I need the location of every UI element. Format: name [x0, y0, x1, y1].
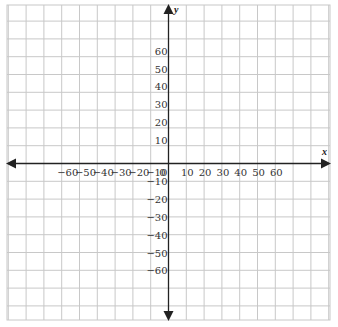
x-tick-label: 30 — [217, 167, 230, 178]
x-tick-label: 10 — [181, 167, 194, 178]
y-tick-label: 20 — [155, 117, 168, 128]
y-tick-label: 10 — [155, 135, 168, 146]
y-tick-label: −10 — [146, 176, 167, 187]
y-tick-labels: 605040302010−10−20−30−40−50−60 — [146, 46, 167, 277]
y-tick-label: 40 — [155, 81, 168, 92]
axes: x y — [6, 4, 331, 321]
x-tick-label: 60 — [270, 167, 283, 178]
y-tick-label: 30 — [155, 99, 168, 110]
y-axis-name: y — [173, 4, 179, 15]
y-tick-label: −30 — [146, 212, 167, 223]
y-tick-label: −50 — [146, 248, 167, 259]
x-tick-label: 40 — [234, 167, 247, 178]
y-tick-label: −60 — [146, 265, 167, 276]
y-tick-label: 60 — [155, 46, 168, 57]
coordinate-plane: x y −60−50−40−30−20−100102030405060 6050… — [0, 0, 338, 327]
x-axis-name: x — [321, 146, 327, 157]
y-tick-label: −20 — [146, 194, 167, 205]
y-tick-label: −40 — [146, 230, 167, 241]
y-tick-label: 50 — [155, 64, 168, 75]
x-tick-label: 50 — [252, 167, 265, 178]
x-tick-label: 20 — [199, 167, 212, 178]
x-tick-labels: −60−50−40−30−20−100102030405060 — [57, 167, 283, 178]
